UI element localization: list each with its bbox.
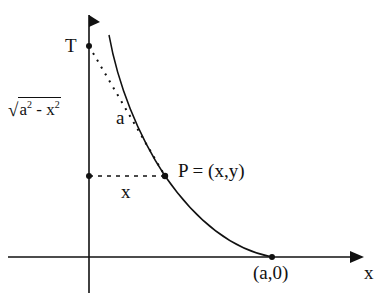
- label-a0: (a,0): [253, 263, 288, 282]
- x-axis-arrow-icon: [350, 251, 364, 263]
- label-P: P = (x,y): [178, 161, 244, 180]
- radicand-x: x: [46, 100, 55, 119]
- label-x-axis: x: [364, 263, 374, 282]
- sqrt-icon: √: [8, 100, 18, 119]
- exponent-2: 2: [55, 99, 60, 110]
- radicand: a2 - x2: [18, 97, 60, 118]
- label-x-segment: x: [121, 182, 131, 201]
- point-a0: [269, 254, 275, 260]
- point-P: [162, 173, 168, 179]
- tractrix-diagram: [0, 0, 387, 305]
- label-T: T: [65, 36, 77, 55]
- radicand-a: a: [19, 100, 27, 119]
- tractrix-curve: [109, 35, 272, 257]
- minus-sign: -: [32, 100, 46, 119]
- label-sqrt-a2-minus-x2: √a2 - x2: [8, 97, 61, 119]
- point-T: [86, 43, 92, 49]
- y-axis-flag-icon: [89, 15, 100, 27]
- point-y-foot: [86, 173, 92, 179]
- label-a: a: [116, 108, 124, 127]
